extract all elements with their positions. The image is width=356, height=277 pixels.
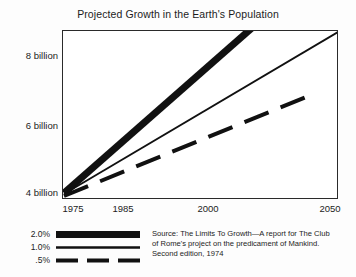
source-note-line-2: of Rome's project on the predicament of … [152, 239, 352, 249]
legend-swatch-thin-solid-icon [56, 242, 140, 253]
legend-swatch-dashed-icon [56, 255, 140, 266]
source-note: Source: The Limits To Growth—A report fo… [152, 229, 352, 260]
legend-label-0-5-percent: .5% [18, 255, 50, 266]
legend-item-1-0-percent: 1.0% [18, 242, 146, 253]
legend-label-2-0-percent: 2.0% [18, 229, 50, 240]
source-note-line-3: Second edition, 1974 [152, 249, 352, 259]
legend-item-2-0-percent: 2.0% [18, 229, 146, 240]
x-tick-label-2050: 2050 [313, 203, 347, 214]
x-tick-label-2000: 2000 [191, 203, 225, 214]
x-tick-label-1975: 1975 [56, 203, 90, 214]
source-note-line-1: Source: The Limits To Growth—A report fo… [152, 229, 352, 239]
chart-legend: 2.0% 1.0% .5% [18, 229, 146, 268]
chart-figure: Projected Growth in the Earth's Populati… [0, 0, 356, 277]
x-tick-label-1985: 1985 [106, 203, 140, 214]
legend-label-1-0-percent: 1.0% [18, 242, 50, 253]
legend-item-0-5-percent: .5% [18, 255, 146, 266]
legend-swatch-thick-solid-icon [56, 229, 140, 240]
